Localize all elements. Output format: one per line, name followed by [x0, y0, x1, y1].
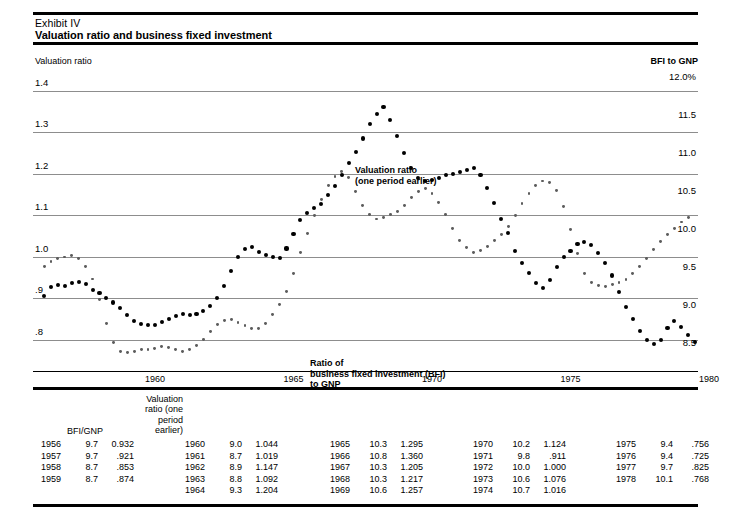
data-point: [472, 166, 476, 170]
data-point: [583, 272, 586, 275]
data-point: [291, 232, 295, 236]
table-header-bfi-gnp: BFI/GNP: [41, 426, 103, 436]
data-point: [312, 206, 316, 210]
data-point: [431, 192, 434, 195]
cell-year: 1977: [616, 462, 643, 474]
data-point: [465, 246, 468, 249]
cell-bfi-gnp: 10.3: [357, 462, 387, 474]
data-point: [590, 281, 593, 284]
data-point: [98, 298, 101, 301]
cell-bfi-gnp: 10.2: [500, 439, 530, 451]
cell-year: 1957: [41, 451, 68, 463]
y-axis-left-tick-label: 1.1: [35, 201, 48, 212]
data-point: [326, 193, 330, 197]
data-point: [513, 249, 517, 253]
y-axis-right-tick-label: 12.0%: [636, 71, 696, 82]
cell-bfi-gnp: 8.7: [68, 474, 98, 486]
cell-year: 1958: [41, 462, 68, 474]
data-point: [381, 105, 385, 109]
data-point: [361, 204, 364, 207]
data-point: [659, 240, 662, 243]
data-point: [257, 250, 261, 254]
data-point: [243, 247, 247, 251]
cell-valuation-ratio: .756: [673, 439, 709, 451]
data-point: [208, 304, 212, 308]
data-point: [582, 240, 586, 244]
data-point: [334, 175, 337, 178]
x-axis-tick-label: 1975: [541, 374, 601, 384]
data-point: [111, 300, 115, 304]
table-row: 19588.7.853: [41, 462, 134, 474]
table-column-group: 19569.70.93219579.7.92119588.7.85319598.…: [41, 439, 134, 485]
cell-year: 1976: [616, 451, 643, 463]
data-point: [659, 338, 663, 342]
data-point: [548, 278, 552, 282]
data-point: [313, 214, 316, 217]
cell-valuation-ratio: 1.000: [530, 462, 566, 474]
cell-valuation-ratio: .768: [673, 474, 709, 486]
table-row: 19618.71.019: [185, 451, 278, 463]
table-row: 196710.31.205: [330, 462, 423, 474]
data-point: [478, 173, 482, 177]
data-point: [271, 255, 275, 259]
annotation-line: period: [105, 415, 183, 425]
data-point: [617, 290, 621, 294]
cell-valuation-ratio: .911: [530, 451, 566, 463]
cell-valuation-ratio: .853: [98, 462, 134, 474]
table-row: 196810.31.217: [330, 474, 423, 486]
data-point: [451, 172, 455, 176]
data-point: [638, 265, 641, 268]
data-point: [222, 284, 226, 288]
chart-plot-area: .8.91.01.11.21.31.4 8.59.09.510.010.511.…: [33, 70, 698, 371]
cell-bfi-gnp: 10.1: [643, 474, 673, 486]
gridline: [33, 91, 698, 92]
data-point: [84, 282, 88, 286]
annotation-line: earlier): [105, 425, 183, 435]
data-point: [195, 344, 198, 347]
data-point: [368, 213, 371, 216]
data-point: [417, 190, 420, 193]
cell-year: 1969: [330, 485, 357, 497]
data-point: [237, 321, 240, 324]
data-point: [589, 243, 593, 247]
data-point: [347, 176, 350, 179]
table-row: 19628.91.147: [185, 462, 278, 474]
cell-valuation-ratio: 1.257: [387, 485, 423, 497]
cell-year: 1962: [185, 462, 212, 474]
data-point: [493, 239, 496, 242]
data-point: [167, 317, 171, 321]
gridline: [33, 215, 698, 216]
cell-bfi-gnp: 9.7: [643, 462, 673, 474]
title-underline-rule: [33, 42, 698, 45]
cell-valuation-ratio: 1.016: [530, 485, 566, 497]
cell-bfi-gnp: 8.8: [212, 474, 242, 486]
cell-bfi-gnp: 8.9: [212, 462, 242, 474]
data-point: [665, 326, 669, 330]
data-point: [91, 278, 94, 281]
y-axis-left-tick-label: 1.0: [35, 243, 48, 254]
cell-valuation-ratio: 1.204: [242, 485, 278, 497]
table-row: 19759.4.756: [616, 439, 709, 451]
data-point: [125, 313, 129, 317]
data-point: [645, 257, 648, 260]
data-point: [541, 286, 545, 290]
table-row: 19579.7.921: [41, 451, 134, 463]
data-point: [368, 122, 372, 126]
data-point: [70, 281, 74, 285]
table-row: 19779.7.825: [616, 462, 709, 474]
data-point: [604, 285, 607, 288]
cell-bfi-gnp: 9.7: [68, 451, 98, 463]
data-point: [603, 261, 607, 265]
annotation-line: Ratio of: [310, 358, 446, 369]
data-point: [403, 204, 406, 207]
cell-valuation-ratio: .725: [673, 451, 709, 463]
cell-bfi-gnp: 10.8: [357, 451, 387, 463]
data-point: [194, 312, 198, 316]
data-point: [257, 327, 260, 330]
data-point: [652, 342, 656, 346]
cell-bfi-gnp: 10.3: [357, 474, 387, 486]
table-row: 196610.81.360: [330, 451, 423, 463]
cell-year: 1967: [330, 462, 357, 474]
data-point: [444, 173, 448, 177]
top-rule: [33, 12, 698, 15]
